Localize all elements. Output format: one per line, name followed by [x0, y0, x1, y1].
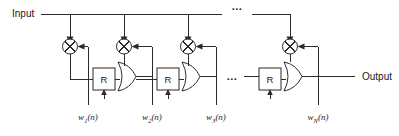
weight-feed-arrow-3 [196, 43, 203, 49]
weight-feed-arrow-1 [78, 43, 85, 49]
weight-arg-2: (n) [151, 112, 162, 122]
signal-rail-ellipsis: ... [227, 70, 238, 82]
weight-arg-n: (n) [318, 112, 329, 122]
weight-label-3: w3(n) [206, 112, 226, 124]
output-label: Output [362, 71, 392, 82]
stage-1-group: R w1(n) [63, 39, 153, 124]
weight-feed-arrow-2 [132, 43, 139, 49]
input-bus-group [41, 14, 290, 35]
weight-feed-arrow-n [298, 43, 305, 49]
weight-label-2: w2(n) [142, 112, 162, 124]
input-tap-drops-group [67, 14, 294, 44]
signal-rail-ellipsis-group: ... [227, 70, 260, 82]
delay-block-label-1: R [101, 74, 108, 85]
delay-block-label-2: R [165, 74, 172, 85]
filter-diagram-canvas: Input ... [0, 0, 399, 136]
weight-label-1: w1(n) [78, 112, 98, 124]
input-bus-ellipsis: ... [232, 0, 243, 12]
weight-label-n: wN(n) [308, 112, 329, 124]
adder-shape-n [284, 62, 302, 91]
adder-shape-2 [182, 62, 200, 91]
delay-block-label-n: R [267, 74, 274, 85]
weight-arg-3: (n) [215, 112, 226, 122]
stage-n-group: R wN(n) [259, 39, 355, 124]
block-diagram-figure: Input ... [0, 0, 399, 136]
adder-shape-1 [118, 62, 136, 91]
weight-arg-1: (n) [87, 112, 98, 122]
input-label: Input [12, 8, 34, 19]
